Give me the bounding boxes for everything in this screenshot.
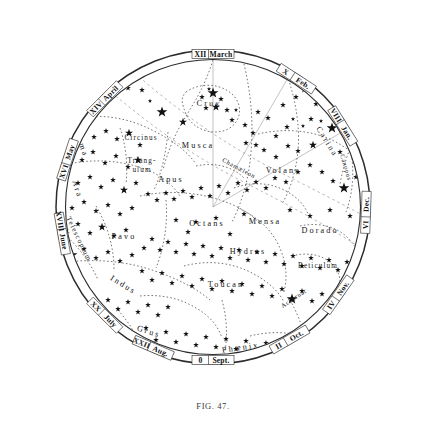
constellation-label: Reticulum [298,262,338,270]
ring-hour-label: VI [361,220,370,229]
constellation-label: Mensa [249,217,281,226]
constellation-label: Dorado [301,226,338,235]
constellation-label: Toucan [208,280,245,289]
ring-hour-label: 0 [199,356,203,365]
ring-month-label: Dec. [362,197,372,212]
constellation-label: Hydrus [230,247,267,256]
constellation-label: Pavo [112,232,137,241]
ring-hour-label: XII [195,50,207,59]
star-chart-figure: CentaurusLupusCruxVelaNormaCircinusMusca… [0,0,426,428]
constellation-label: Musca [182,141,214,150]
constellation-label: Crux [197,99,222,109]
constellation-label: Apus [158,175,184,184]
figure-caption: FIG. 47. [0,401,426,411]
constellation-label: ulum [132,166,151,174]
ring-month-label: Sept. [212,356,229,365]
constellation-label: Volans [266,166,301,175]
constellation-label: Circinus [124,134,157,142]
constellation-label: Octans [189,219,224,228]
ring-label-group: XIIMarch [192,49,234,58]
ring-label-group: 0Sept. [192,355,234,364]
constellation-label: Triang- [128,157,157,165]
ring-month-label: March [210,50,233,59]
ring-label-group: VIDec. [361,191,372,233]
star-map-svg: CentaurusLupusCruxVelaNormaCircinusMusca… [0,0,426,428]
